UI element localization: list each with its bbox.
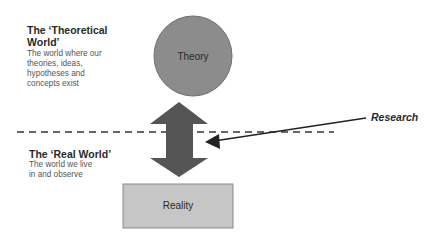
- real-world-block: The ‘Real World’ The world we live in an…: [29, 148, 139, 180]
- theory-label: Theory: [154, 51, 232, 62]
- theoretical-world-heading: The ‘Theoretical World’: [27, 24, 137, 48]
- research-pointer-line: [214, 118, 366, 141]
- reality-label: Reality: [123, 200, 233, 211]
- real-world-heading: The ‘Real World’: [29, 148, 139, 160]
- theoretical-world-description: The world where our theories, ideas, hyp…: [27, 49, 105, 89]
- real-world-description: The world we live in and observe: [29, 160, 99, 180]
- double-headed-arrow-icon: [150, 102, 208, 177]
- research-pointer-arrowhead-icon: [205, 134, 220, 149]
- research-label: Research: [371, 111, 418, 123]
- theoretical-world-block: The ‘Theoretical World’ The world where …: [27, 24, 137, 89]
